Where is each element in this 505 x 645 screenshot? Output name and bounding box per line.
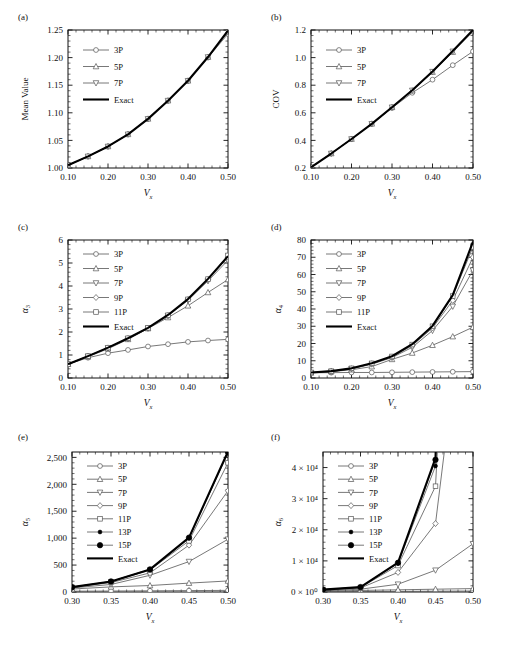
legend-label-9P: 9P xyxy=(357,293,366,303)
x-tick-label: 0.10 xyxy=(303,172,319,182)
y-axis-title: COV xyxy=(271,89,281,109)
x-tick-label: 0.30 xyxy=(140,172,156,182)
panel-label-a: (a) xyxy=(18,12,28,22)
legend-label-Exact: Exact xyxy=(357,322,377,332)
y-tick-label: 2,500 xyxy=(47,453,68,463)
x-tick-label: 0.50 xyxy=(465,596,481,606)
y-tick-label: 0 xyxy=(302,373,307,383)
legend: 3P5P7PExact xyxy=(83,45,134,104)
legend-label-5P: 5P xyxy=(118,474,127,484)
svg-text:α4: α4 xyxy=(273,304,285,313)
y-tick-label: 1.25 xyxy=(47,25,63,35)
data-point-marker xyxy=(450,369,455,374)
data-point-marker xyxy=(225,277,231,282)
data-layer xyxy=(65,253,231,367)
x-axis-title: Vx xyxy=(144,188,153,200)
x-tick-label: 0.10 xyxy=(60,172,76,182)
y-tick-label: 1.10 xyxy=(47,108,63,118)
series-line-Exact xyxy=(311,242,473,373)
data-point-marker xyxy=(336,295,341,301)
legend-label-11P: 11P xyxy=(369,514,382,524)
data-point-marker xyxy=(450,63,455,68)
data-point-marker xyxy=(430,77,435,82)
x-tick-label: 0.40 xyxy=(142,596,158,606)
data-point-marker xyxy=(93,295,98,301)
legend-label-9P: 9P xyxy=(118,501,127,511)
series-line-Exact xyxy=(68,31,228,166)
x-tick-label: 0.30 xyxy=(64,596,80,606)
x-axis-title: Vx xyxy=(146,612,155,624)
y-tick-label: 60 xyxy=(297,270,307,280)
y-axis-title: Mean Value xyxy=(20,77,30,120)
data-point-marker xyxy=(226,460,231,465)
chart-svg-f: (f)0.300.350.400.450.500 × 10⁰1 × 10⁴2 ×… xyxy=(263,428,503,640)
data-point-marker xyxy=(225,537,231,542)
legend-label-5P: 5P xyxy=(357,62,366,72)
y-tick-label: 1 × 10⁴ xyxy=(292,556,318,566)
panel-label-c: (c) xyxy=(18,222,28,232)
legend: 3P5P7P9P11P13P15PExact xyxy=(338,461,389,563)
legend-label-13P: 13P xyxy=(118,527,132,537)
panel-label-b: (b) xyxy=(271,12,282,22)
panel-label-f: (f) xyxy=(271,432,280,442)
svg-text:COV: COV xyxy=(271,89,281,109)
chart-svg-d: (d)0.100.200.300.400.5001020304050607080… xyxy=(263,218,503,423)
x-tick-label: 0.40 xyxy=(390,596,406,606)
y-tick-label: 0 xyxy=(63,587,68,597)
x-tick-label: 0.10 xyxy=(60,382,76,392)
legend-label-Exact: Exact xyxy=(114,95,134,105)
legend-label-15P: 15P xyxy=(369,540,383,550)
y-axis-title: α4 xyxy=(273,304,285,313)
x-tick-label: 0.40 xyxy=(425,172,441,182)
figure-canvas: (a)0.100.200.300.400.501.001.051.101.151… xyxy=(0,0,505,645)
y-tick-label: 70 xyxy=(297,252,307,262)
series-line-5P xyxy=(311,327,473,373)
data-layer xyxy=(69,449,231,593)
y-axis-title: α3 xyxy=(20,305,32,313)
x-tick-label: 0.30 xyxy=(384,172,400,182)
legend-label-7P: 7P xyxy=(114,278,123,288)
data-point-marker xyxy=(410,370,415,375)
data-point-marker xyxy=(470,541,476,546)
x-tick-label: 0.45 xyxy=(181,596,197,606)
data-point-marker xyxy=(470,254,475,260)
y-tick-label: 0.6 xyxy=(295,108,307,118)
x-tick-label: 0.20 xyxy=(100,172,116,182)
x-tick-label: 0.50 xyxy=(465,382,481,392)
svg-text:α6: α6 xyxy=(273,517,285,526)
x-tick-label: 0.30 xyxy=(140,382,156,392)
data-point-marker xyxy=(126,348,131,353)
data-point-marker xyxy=(94,310,99,315)
data-point-marker xyxy=(146,344,151,349)
data-point-marker xyxy=(369,370,374,375)
series-line-7P xyxy=(72,539,228,588)
x-tick-label: 0.50 xyxy=(220,596,236,606)
chart-panel-e: (e)0.300.350.400.450.5005001,0001,5002,0… xyxy=(10,428,253,640)
legend: 3P5P7PExact xyxy=(326,45,377,104)
legend-label-7P: 7P xyxy=(357,278,366,288)
legend-label-11P: 11P xyxy=(114,307,127,317)
chart-panel-f: (f)0.300.350.400.450.500 × 10⁰1 × 10⁴2 ×… xyxy=(263,428,503,640)
y-tick-label: 30 xyxy=(297,321,307,331)
x-tick-label: 0.30 xyxy=(384,382,400,392)
legend-label-3P: 3P xyxy=(114,249,123,259)
data-point-marker xyxy=(166,342,171,347)
y-tick-label: 0.4 xyxy=(295,136,307,146)
x-axis-title: Vx xyxy=(394,612,403,624)
x-tick-label: 0.45 xyxy=(428,596,444,606)
legend-label-9P: 9P xyxy=(114,293,123,303)
y-tick-label: 1.00 xyxy=(47,163,63,173)
chart-panel-b: (b)0.100.200.300.400.500.20.40.60.81.01.… xyxy=(263,8,503,213)
legend-label-7P: 7P xyxy=(114,78,123,88)
legend-label-3P: 3P xyxy=(114,45,123,55)
legend-label-5P: 5P xyxy=(114,264,123,274)
plot-frame xyxy=(68,240,228,378)
data-point-marker xyxy=(349,517,354,522)
data-point-marker xyxy=(97,543,102,548)
y-tick-label: 40 xyxy=(297,304,307,314)
legend-label-13P: 13P xyxy=(369,527,383,537)
x-axis-title: Vx xyxy=(388,398,397,410)
legend-label-Exact: Exact xyxy=(114,322,134,332)
y-tick-label: 4 xyxy=(59,281,64,291)
y-tick-label: 50 xyxy=(297,287,307,297)
